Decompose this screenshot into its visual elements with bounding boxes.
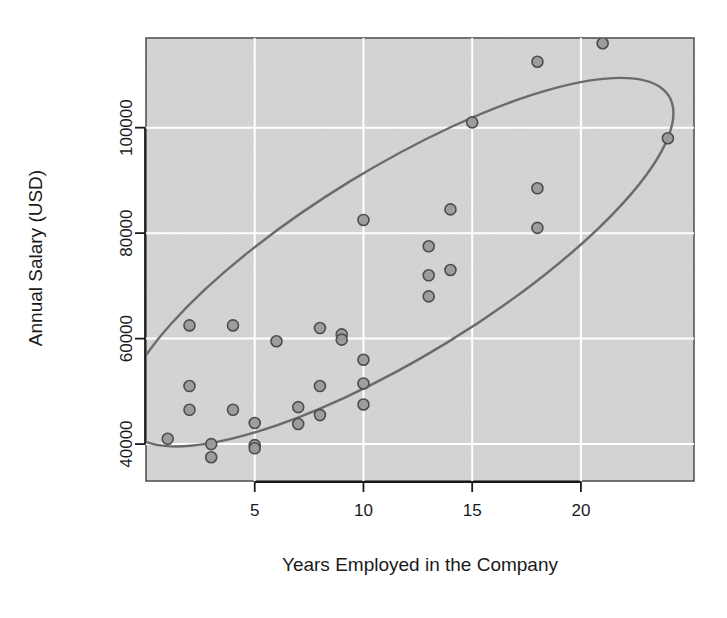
data-point — [184, 404, 195, 415]
x-axis-tick-label: 20 — [571, 501, 590, 520]
data-point — [662, 133, 673, 144]
data-point — [423, 291, 434, 302]
data-point — [423, 270, 434, 281]
x-axis-tick-label: 15 — [463, 501, 482, 520]
panel-background — [146, 38, 694, 481]
y-axis-tick-label: 60000 — [117, 315, 136, 362]
y-axis-tick-label: 40000 — [117, 420, 136, 467]
data-point — [249, 417, 260, 428]
data-point — [293, 419, 304, 430]
data-point — [336, 334, 347, 345]
data-point — [445, 265, 456, 276]
data-point — [293, 402, 304, 413]
data-point — [314, 381, 325, 392]
data-point — [532, 222, 543, 233]
data-point — [358, 378, 369, 389]
x-axis-tick-label: 10 — [354, 501, 373, 520]
x-axis-title: Years Employed in the Company — [282, 554, 559, 575]
data-point — [184, 320, 195, 331]
data-point — [358, 399, 369, 410]
data-point — [532, 183, 543, 194]
data-point — [358, 214, 369, 225]
data-point — [358, 354, 369, 365]
y-axis-title: Annual Salary (USD) — [25, 170, 46, 346]
data-point — [467, 117, 478, 128]
plot-canvas: 5101520 400006000080000100000 Years Empl… — [0, 0, 727, 618]
x-axis-tick-label: 5 — [250, 501, 259, 520]
data-point — [314, 410, 325, 421]
data-point — [184, 381, 195, 392]
data-point — [227, 320, 238, 331]
plot-panel — [146, 38, 694, 481]
data-point — [314, 323, 325, 334]
data-point — [271, 336, 282, 347]
data-point — [206, 452, 217, 463]
data-point — [597, 38, 608, 49]
data-point — [206, 439, 217, 450]
data-point — [445, 204, 456, 215]
data-point — [249, 443, 260, 454]
y-axis-tick-label: 100000 — [117, 99, 136, 156]
data-point — [227, 404, 238, 415]
data-point — [162, 433, 173, 444]
data-point — [423, 241, 434, 252]
y-axis-tick-label: 80000 — [117, 209, 136, 256]
data-point — [532, 56, 543, 67]
scatter-plot-figure: 5101520 400006000080000100000 Years Empl… — [0, 0, 727, 618]
